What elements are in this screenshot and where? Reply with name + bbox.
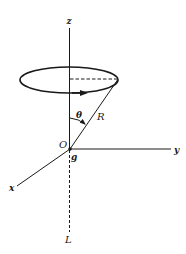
theta-label: θ [76,110,82,120]
x-axis-line [17,149,70,186]
radius-label: R [96,111,105,122]
gravity-label: g [71,152,77,162]
rotating-vector-diagram: z y x O g R θ L [0,0,186,254]
origin-label: O [59,139,67,150]
l-axis-label: L [64,234,72,245]
origin-point [68,147,72,151]
x-axis-label: x [8,183,15,193]
z-axis-label: z [66,16,73,26]
y-axis-label: y [173,145,180,155]
